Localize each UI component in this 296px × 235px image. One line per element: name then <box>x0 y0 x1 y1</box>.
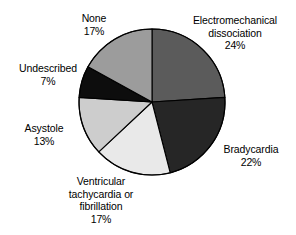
pie-label-vtach-percent: 17% <box>48 213 154 226</box>
pie-label-undescribed-text: Undescribed <box>2 62 94 75</box>
pie-label-none: None 17% <box>52 12 136 37</box>
pie-label-ventricular-tachycardia-or-fibrillation: Ventricular tachycardia or fibrillation … <box>48 175 154 225</box>
pie-label-vtach-text-line3: fibrillation <box>48 200 154 213</box>
pie-label-bradycardia: Bradycardia 22% <box>210 143 292 168</box>
pie-label-emd-text-line2: dissociation <box>176 27 294 40</box>
pie-label-emd-text-line1: Electromechanical <box>176 14 294 27</box>
pie-label-asystole: Asystole 13% <box>8 122 80 147</box>
pie-label-undescribed-percent: 7% <box>2 75 94 88</box>
pie-chart-figure: None 17% Electromechanical dissociation … <box>0 0 296 235</box>
pie-label-none-percent: 17% <box>52 25 136 38</box>
pie-label-electromechanical-dissociation: Electromechanical dissociation 24% <box>176 14 294 52</box>
pie-label-asystole-percent: 13% <box>8 135 80 148</box>
pie-label-vtach-text-line2: tachycardia or <box>48 188 154 201</box>
pie-label-bradycardia-percent: 22% <box>210 156 292 169</box>
pie-label-undescribed: Undescribed 7% <box>2 62 94 87</box>
pie-label-bradycardia-text: Bradycardia <box>210 143 292 156</box>
pie-label-none-text: None <box>52 12 136 25</box>
pie-label-vtach-text-line1: Ventricular <box>48 175 154 188</box>
pie-label-emd-percent: 24% <box>176 39 294 52</box>
pie-label-asystole-text: Asystole <box>8 122 80 135</box>
